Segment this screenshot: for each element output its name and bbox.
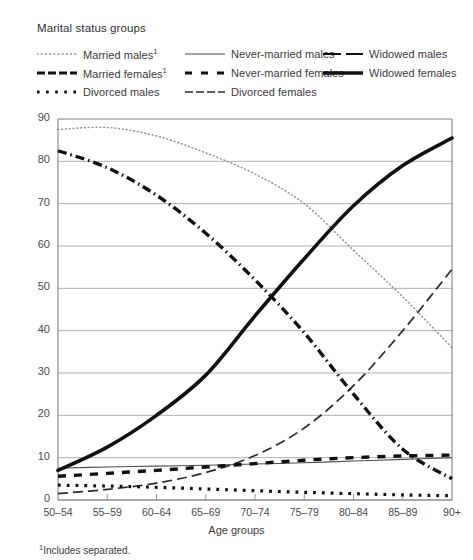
series-line bbox=[58, 455, 452, 476]
line-style-long-dash-thin-icon bbox=[185, 86, 225, 98]
footnote-text: Includes separated. bbox=[43, 545, 130, 556]
line-style-fine-dotted-icon bbox=[37, 48, 77, 60]
x-axis-tick-label: 55–59 bbox=[79, 506, 135, 518]
legend-column-3: Widowed males Widowed females bbox=[323, 44, 457, 82]
legend-item-married-females: Married females1 bbox=[37, 63, 167, 82]
line-style-square-dotted-icon bbox=[37, 86, 77, 98]
x-axis-tick-label: 65–69 bbox=[178, 506, 234, 518]
x-axis-tick-label: 90+ bbox=[424, 506, 473, 518]
y-axis-tick-label: 80 bbox=[24, 153, 50, 165]
line-style-heavy-solid-icon bbox=[323, 67, 363, 79]
y-axis-tick-label: 50 bbox=[24, 280, 50, 292]
x-axis-title: Age groups bbox=[0, 524, 473, 536]
legend-label: Widowed males bbox=[369, 48, 447, 60]
x-axis-tick-label: 80–84 bbox=[326, 506, 382, 518]
series-line bbox=[58, 138, 452, 470]
legend-label: Divorced females bbox=[231, 86, 317, 98]
legend-label: Married males1 bbox=[83, 47, 158, 61]
legend-label: Never-married males bbox=[231, 48, 335, 60]
legend-item-widowed-females: Widowed females bbox=[323, 63, 457, 82]
y-axis-tick-label: 20 bbox=[24, 407, 50, 419]
legend-item-never-married-females: Never-married females bbox=[185, 63, 344, 82]
footnote: 1Includes separated. bbox=[39, 543, 130, 556]
y-axis-tick-label: 70 bbox=[24, 196, 50, 208]
footnote-marker: 1 bbox=[153, 47, 157, 56]
y-axis-tick-label: 60 bbox=[24, 238, 50, 250]
x-axis-tick-label: 70–74 bbox=[227, 506, 283, 518]
y-axis-tick-label: 30 bbox=[24, 365, 50, 377]
legend-column-1: Married males1 Married females1 Divorced… bbox=[37, 44, 167, 101]
legend-item-divorced-males: Divorced males bbox=[37, 82, 167, 101]
x-axis-tick-label: 50–54 bbox=[30, 506, 86, 518]
legend-label: Married females1 bbox=[83, 66, 167, 80]
x-axis-tick-label: 85–89 bbox=[375, 506, 431, 518]
line-style-dash-long-short-icon bbox=[323, 48, 363, 60]
legend-title: Marital status groups bbox=[37, 22, 146, 34]
legend-item-widowed-males: Widowed males bbox=[323, 44, 457, 63]
plot-area bbox=[0, 110, 473, 534]
y-axis-tick-label: 90 bbox=[24, 111, 50, 123]
legend-column-2: Never-married males Never-married female… bbox=[185, 44, 344, 101]
x-axis-tick-label: 75–79 bbox=[276, 506, 332, 518]
line-style-thin-solid-icon bbox=[185, 48, 225, 60]
line-style-dash-dot-thick-icon bbox=[37, 67, 77, 79]
x-axis-tick-label: 60–64 bbox=[129, 506, 185, 518]
legend-item-divorced-females: Divorced females bbox=[185, 82, 344, 101]
line-style-dashed-thick-icon bbox=[185, 67, 225, 79]
y-axis-tick-label: 40 bbox=[24, 323, 50, 335]
y-axis-tick-label: 10 bbox=[24, 450, 50, 462]
legend-item-married-males: Married males1 bbox=[37, 44, 167, 63]
legend: Married males1 Married females1 Divorced… bbox=[37, 44, 457, 102]
y-axis-tick-label: 0 bbox=[24, 492, 50, 504]
legend-label: Widowed females bbox=[369, 67, 457, 79]
footnote-marker: 1 bbox=[163, 66, 167, 75]
marital-status-chart: Marital status groups Married males1 Mar… bbox=[0, 0, 473, 560]
legend-item-never-married-males: Never-married males bbox=[185, 44, 344, 63]
legend-label: Divorced males bbox=[83, 86, 160, 98]
plot-svg bbox=[0, 110, 473, 530]
